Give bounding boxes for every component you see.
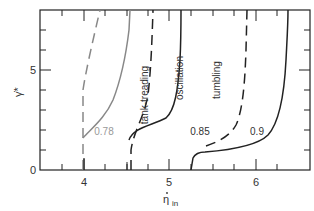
x-axis-ticks [62,159,277,170]
curve-09-solid [191,10,288,170]
curve-078-dashed [83,10,100,170]
x-tick-4: 4 [81,176,87,188]
y-axis-ticks [40,30,51,150]
y-tick-5: 5 [30,64,36,76]
phase-diagram-chart: 4 5 6 0 5 η in γ̇* tank-treading oscilla… [0,0,314,211]
region-label-tumbling: tumbling [211,61,222,99]
x-tick-6: 6 [253,176,259,188]
curve-label-085: 0.85 [190,126,210,137]
y-tick-0: 0 [30,164,36,176]
region-label-tank-treading: tank-treading [139,66,150,124]
curve-label-078: 0.78 [94,126,114,137]
y-axis-label: γ̇* [12,86,24,97]
right-axis-ticks [299,30,310,150]
curve-label-09: 0.9 [250,126,264,137]
x-tick-5: 5 [166,176,172,188]
region-label-oscillation: oscillation [174,56,185,100]
svg-text:in: in [172,199,178,208]
x-axis-label: η in [163,192,178,208]
top-axis-ticks [62,10,277,21]
svg-text:η: η [163,193,169,205]
curve-078-solid [83,10,130,138]
